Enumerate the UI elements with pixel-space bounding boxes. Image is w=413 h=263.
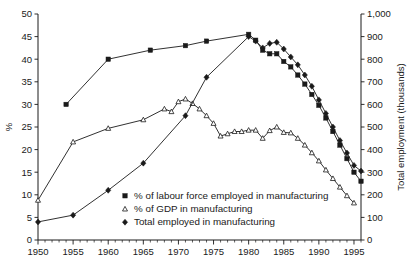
legend-label: Total employed in manufacturing (134, 216, 275, 227)
legend-label: % of labour force employed in manufactur… (134, 190, 328, 201)
y-axis-left-tick-label: 0 (27, 234, 32, 245)
data-point-marker (351, 162, 356, 168)
data-point-marker (36, 198, 41, 203)
y-axis-right-tick-label: 900 (367, 31, 383, 42)
x-axis-tick-label: 1950 (27, 246, 48, 257)
y-axis-right-title: Total employment (thousands) (395, 63, 406, 190)
data-point-marker (359, 179, 363, 183)
y-axis-left-tick-label: 10 (21, 189, 32, 200)
y-axis-right-tick-label: 600 (367, 99, 383, 110)
x-axis-tick-label: 1985 (273, 246, 294, 257)
legend-item: % of labour force employed in manufactur… (123, 190, 329, 201)
data-point-marker (282, 59, 286, 63)
x-axis-tick-label: 1995 (343, 246, 364, 257)
y-axis-left-tick-label: 40 (21, 54, 32, 65)
data-point-marker (267, 128, 272, 133)
x-axis-tick-label: 1960 (98, 246, 119, 257)
data-point-marker (274, 124, 279, 129)
y-axis-right-tick-label: 400 (367, 144, 383, 155)
y-axis-left-tick-label: 35 (21, 76, 32, 87)
data-point-marker (106, 57, 110, 61)
data-point-marker (289, 65, 293, 69)
y-axis-right-tick-label: 100 (367, 212, 383, 223)
data-point-marker (123, 206, 128, 211)
y-axis-right-tick-label: 200 (367, 189, 383, 200)
data-point-marker (141, 117, 146, 122)
y-axis-left-tick-label: 20 (21, 144, 32, 155)
data-point-marker (268, 52, 272, 56)
y-axis-left-tick-label: 5 (27, 212, 32, 223)
data-point-marker (71, 212, 76, 218)
y-axis-right-tick-label: 800 (367, 54, 383, 65)
data-point-marker (162, 106, 167, 111)
data-point-marker (310, 92, 314, 96)
data-point-marker (106, 187, 111, 193)
data-point-marker (35, 219, 40, 225)
chart-container: 05101520253035404550%0100200300400500600… (0, 0, 413, 263)
series-line (38, 99, 354, 203)
data-point-marker (303, 82, 307, 86)
y-axis-left-tick-label: 25 (21, 121, 32, 132)
data-point-marker (296, 73, 300, 77)
data-point-marker (122, 219, 127, 225)
data-point-marker (123, 194, 127, 198)
x-axis-tick-label: 1990 (308, 246, 329, 257)
x-axis-tick-label: 1965 (133, 246, 154, 257)
data-point-marker (267, 40, 272, 46)
data-point-marker (358, 168, 363, 174)
y-axis-right-tick-label: 300 (367, 167, 383, 178)
legend-item: Total employed in manufacturing (122, 216, 275, 227)
data-point-marker (204, 39, 208, 43)
legend-label: % of GDP in manufacturing (134, 203, 253, 214)
legend-item: % of GDP in manufacturing (123, 203, 253, 214)
data-point-marker (183, 43, 187, 47)
series-line (66, 34, 361, 181)
y-axis-right-tick-label: 700 (367, 76, 383, 87)
y-axis-left-tick-label: 30 (21, 99, 32, 110)
data-point-marker (64, 102, 68, 106)
y-axis-left-tick-label: 15 (21, 167, 32, 178)
series-2 (36, 96, 357, 205)
data-point-marker (275, 52, 279, 56)
y-axis-left-tick-label: 45 (21, 31, 32, 42)
x-axis-tick-label: 1975 (203, 246, 224, 257)
x-axis-tick-label: 1970 (168, 246, 189, 257)
y-axis-left-tick-label: 50 (21, 8, 32, 19)
y-axis-right-tick-label: 1,000 (367, 8, 391, 19)
x-axis-tick-label: 1955 (63, 246, 84, 257)
y-axis-right-tick-label: 500 (367, 121, 383, 132)
data-point-marker (183, 96, 188, 101)
y-axis-right-tick-label: 0 (367, 234, 372, 245)
data-point-marker (345, 156, 349, 160)
data-point-marker (352, 170, 356, 174)
manufacturing-trends-chart: 05101520253035404550%0100200300400500600… (0, 0, 413, 263)
y-axis-left-title: % (3, 122, 14, 131)
data-point-marker (148, 48, 152, 52)
x-axis-tick-label: 1980 (238, 246, 259, 257)
